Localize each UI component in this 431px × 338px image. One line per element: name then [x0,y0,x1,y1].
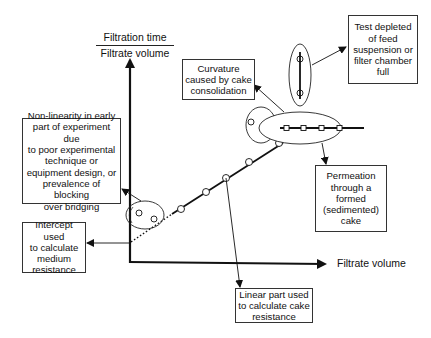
annotation-test-depleted: Test depleted of feed suspension or filt… [348,15,418,84]
annotation-intercept-text: Intercept used to calculate medium resis… [24,219,84,275]
annotation-curvature-text: Curvature caused by cake consolidation [185,63,252,97]
annotation-curvature: Curvature caused by cake consolidation [182,59,255,100]
early-region-ellipse [126,201,164,229]
x-axis-label: Filtrate volume [337,257,406,269]
annotation-non-linearity-text: Non-linearity in early part of experimen… [24,110,119,212]
annotation-permeation: Permeation through a formed (sedimented)… [315,165,387,232]
x-axis [129,262,325,264]
early-data-points [136,210,157,222]
y-axis-label-denominator: Filtrate volume [96,46,174,60]
annotation-test-depleted-text: Test depleted of feed suspension or filt… [353,21,413,77]
curvature-data-point [248,119,254,125]
y-axis-label-numerator: Filtration time [96,31,174,46]
annotation-permeation-text: Permeation through a formed (sedimented)… [323,170,379,226]
y-axis-label: Filtration time Filtrate volume [96,31,174,60]
annotation-linear-part-text: Linear part used to calculate cake resis… [238,289,309,323]
annotation-intercept: Intercept used to calculate medium resis… [22,222,86,273]
annotation-linear-part: Linear part used to calculate cake resis… [235,288,313,323]
annotation-non-linearity: Non-linearity in early part of experimen… [22,118,121,204]
